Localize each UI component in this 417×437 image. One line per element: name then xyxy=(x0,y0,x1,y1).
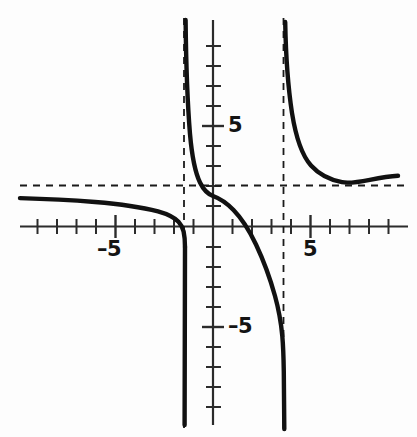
curve-branch-middle xyxy=(186,20,285,429)
y-axis-tick-label-5: 5 xyxy=(228,113,242,137)
plot-canvas xyxy=(0,0,417,437)
x-axis-tick-label-5: 5 xyxy=(303,237,317,261)
rational-function-graph: 5 –5 5 –5 xyxy=(0,0,417,437)
curve-branch-right xyxy=(285,22,398,183)
x-axis-tick-label-negative-5: –5 xyxy=(97,237,121,261)
y-axis-tick-label-negative-5: –5 xyxy=(228,314,252,338)
